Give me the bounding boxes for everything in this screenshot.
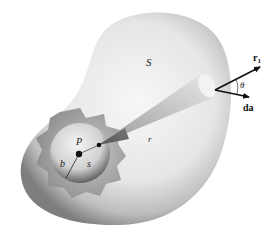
angle-arc [236,80,238,94]
label-p: P [75,136,82,147]
label-theta: θ [240,80,245,90]
label-s-surface: S [146,56,152,68]
label-b: b [60,158,65,169]
sphere-point [97,143,102,148]
point-p [76,151,82,157]
label-r: r [148,134,152,144]
label-r1: r1 [253,52,261,65]
label-da: da [243,102,254,113]
gauss-law-diagram: S P b s r θ r1 da [0,0,279,233]
label-s-sphere: s [87,158,91,169]
